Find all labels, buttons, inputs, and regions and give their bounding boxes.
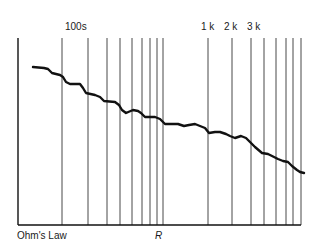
ohms-law-caption: Ohm's Law bbox=[17, 231, 67, 241]
label-2k: 2 k bbox=[224, 22, 237, 32]
resistance-chart bbox=[0, 0, 318, 250]
label-1k: 1 k bbox=[201, 22, 214, 32]
label-3k: 3 k bbox=[247, 22, 260, 32]
data-curve bbox=[33, 67, 304, 173]
vertical-gridlines bbox=[62, 38, 301, 225]
label-100s: 100s bbox=[65, 22, 87, 32]
x-axis-label-r: R bbox=[155, 231, 162, 241]
